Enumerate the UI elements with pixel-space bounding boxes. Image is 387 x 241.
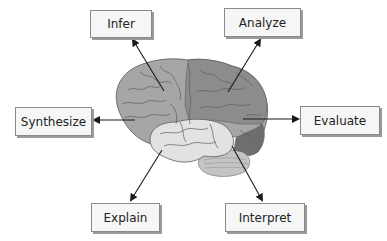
label-synthesize: Synthesize <box>15 107 92 136</box>
label-evaluate: Evaluate <box>300 106 380 135</box>
label-infer: Infer <box>90 10 152 38</box>
label-analyze: Analyze <box>224 8 301 37</box>
temporal-lobe <box>150 119 234 162</box>
label-explain: Explain <box>91 203 160 232</box>
arrow-to-explain <box>131 150 162 200</box>
brain-illustration <box>116 59 267 177</box>
label-interpret: Interpret <box>225 203 305 232</box>
